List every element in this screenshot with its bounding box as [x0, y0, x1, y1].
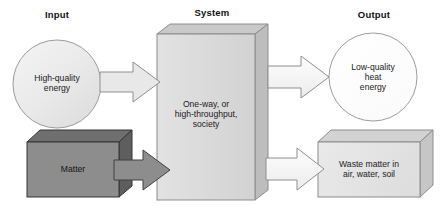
system-cube-front — [157, 34, 255, 200]
waste-cube-top — [318, 130, 433, 142]
node-waste-matter — [318, 130, 433, 197]
node-low-quality-heat — [329, 33, 417, 121]
low-quality-heat-circle — [329, 33, 417, 121]
node-system-society — [157, 24, 268, 200]
arrow-energy-to-system — [100, 62, 160, 102]
matter-cube-top — [27, 130, 132, 142]
arrow-system-to-heat — [268, 56, 329, 98]
matter-cube-front — [27, 142, 119, 197]
high-quality-energy-circle — [13, 40, 101, 128]
waste-cube-side — [420, 130, 433, 197]
node-high-quality-energy — [13, 40, 101, 128]
diagram-canvas: Input System Output High-quality energy … — [0, 0, 444, 216]
column-title-output: Output — [340, 9, 408, 20]
arrow-system-to-waste — [266, 148, 324, 190]
arrow-system-to-heat-shape — [268, 56, 329, 98]
system-cube-top — [157, 24, 268, 34]
column-title-input: Input — [25, 9, 89, 20]
waste-cube-front — [318, 142, 420, 197]
column-title-system: System — [176, 7, 248, 18]
arrow-energy-to-system-shape — [100, 62, 160, 102]
system-flow-diagram — [0, 0, 444, 216]
arrow-system-to-waste-shape — [266, 148, 324, 190]
